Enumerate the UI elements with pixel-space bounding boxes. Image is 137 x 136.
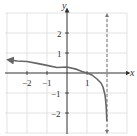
y-tick-label: 1: [57, 49, 62, 59]
y-tick-label: 2: [57, 29, 62, 39]
function-graph: −2 −1 1 2 1 −1 −2 x y: [0, 0, 137, 136]
y-axis-label: y: [61, 0, 67, 11]
y-tick-label: −2: [51, 109, 61, 119]
x-axis-label: x: [129, 67, 135, 78]
y-tick-label: −1: [51, 89, 61, 99]
x-tick-label: −1: [42, 78, 52, 88]
x-tick-label: −2: [22, 78, 32, 88]
x-tick-label: 1: [85, 78, 90, 88]
